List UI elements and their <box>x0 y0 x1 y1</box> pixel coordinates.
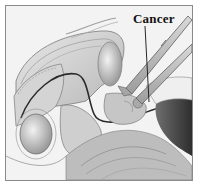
cancer-label: Cancer <box>133 11 175 27</box>
illustration-frame: Cancer <box>5 5 193 181</box>
anatomy-illustration <box>6 6 192 180</box>
